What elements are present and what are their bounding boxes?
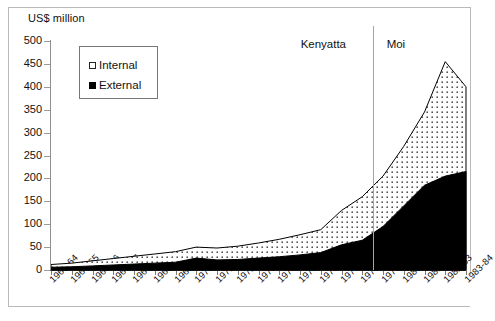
annotation-kenyatta: Kenyatta [301, 38, 346, 50]
regime-divider-line [373, 26, 374, 270]
legend-label-internal: Internal [99, 59, 137, 71]
legend-item-internal: Internal [89, 59, 137, 71]
legend-item-external: External [89, 79, 141, 91]
internal-swatch-icon [89, 62, 96, 69]
annotation-moi: Moi [387, 38, 406, 50]
chart-legend: Internal External [79, 46, 158, 99]
legend-label-external: External [99, 79, 141, 91]
external-swatch-icon [89, 82, 96, 89]
